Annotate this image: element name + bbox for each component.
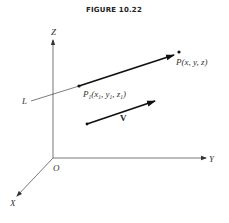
x-axis (17, 158, 53, 196)
point-p: P(x, y, z) (175, 50, 208, 67)
y-axis-label: Y (209, 154, 215, 164)
origin-label: O (53, 163, 60, 173)
line-l-directed-segment (79, 55, 174, 86)
x-axis-label: X (9, 198, 16, 208)
point-p1-dot (77, 84, 80, 87)
vector-v-label: V (120, 113, 127, 123)
line-l-label: L (21, 96, 27, 106)
axes: Z Y X O (9, 27, 215, 208)
z-axis-label: Z (51, 27, 57, 37)
line-l-thin-segment (31, 86, 79, 101)
point-p1-label: P1(x1, y1, z1) (82, 89, 126, 100)
point-p-label: P(x, y, z) (175, 57, 208, 67)
figure-title: FIGURE 10.22 (86, 6, 142, 14)
point-p1: P1(x1, y1, z1) (77, 84, 126, 100)
vector-v: V (86, 101, 155, 125)
point-p-dot (177, 50, 180, 53)
figure-10-22: FIGURE 10.22 Z Y X O L P1(x1, y1, z1) P(… (0, 0, 229, 223)
